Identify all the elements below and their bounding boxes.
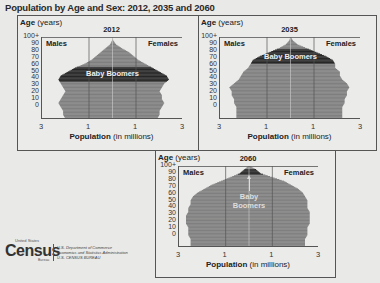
females-label: Females <box>148 39 178 48</box>
logo-word: Census <box>5 243 60 259</box>
males-label: Males <box>183 168 204 177</box>
y-tick: 0 <box>201 102 217 109</box>
females-label: Females <box>326 39 356 48</box>
y-tick-labels: 100+9080706050403020100 <box>158 162 176 238</box>
logo-line3: U.S. CENSUS BUREAU <box>57 255 128 260</box>
x-axis-label: Population (in millions) <box>69 132 153 141</box>
x-tick: 1 <box>133 122 137 131</box>
baby-label: Baby <box>233 192 266 201</box>
x-tick: 1 <box>264 122 268 131</box>
panel-2060: Age (years) 2060 100+9080706050403020100… <box>155 150 336 278</box>
baby-boomers-label: BabyBoomers <box>233 192 266 210</box>
logo-agency-text: U.S. Department of Commerce Economics an… <box>57 245 128 260</box>
x-tick: 3 <box>180 122 184 131</box>
panel-2012: Age (years) 2012 100+9080706050403020100… <box>17 15 199 151</box>
males-label: Males <box>224 39 245 48</box>
year-label: 2060 <box>240 154 257 163</box>
chart-title: Population by Age and Sex: 2012, 2035 an… <box>5 2 215 13</box>
pyramid-plot: MalesFemalesBaby Boomers <box>41 37 182 119</box>
males-label: Males <box>46 39 67 48</box>
x-tick: 1 <box>86 122 90 131</box>
pyramid-plot: MalesFemalesBabyBoomers <box>178 166 318 247</box>
y-tick: 0 <box>158 231 176 238</box>
year-label: 2035 <box>281 25 298 34</box>
y-axis-label: Age (years) <box>20 18 62 27</box>
boomers-label: Boomers <box>233 201 266 210</box>
y-tick-labels: 100+9080706050403020100 <box>201 33 217 109</box>
x-tick: 3 <box>39 122 43 131</box>
x-tick: 3 <box>217 122 221 131</box>
x-tick: 1 <box>269 250 273 259</box>
x-axis-label: Population (in millions) <box>247 132 331 141</box>
logo-divider <box>53 244 54 261</box>
pyramid-plot: MalesFemalesBaby Boomers <box>219 37 360 119</box>
x-tick: 3 <box>176 250 180 259</box>
baby-boomers-label: Baby Boomers <box>86 69 139 78</box>
panel-2035: Age (years) 2035 100+9080706050403020100… <box>198 15 377 151</box>
x-axis-label: Population (in millions) <box>206 260 290 269</box>
x-tick: 1 <box>223 250 227 259</box>
x-tick: 3 <box>316 250 320 259</box>
baby-boomers-label: Baby Boomers <box>264 52 317 61</box>
census-logo: United States Census Bureau U.S. Departm… <box>5 243 60 259</box>
y-axis-label: Age (years) <box>201 18 243 27</box>
y-tick: 0 <box>20 102 39 109</box>
pyramid-bars <box>220 37 360 119</box>
x-tick: 1 <box>311 122 315 131</box>
logo-sub: Bureau <box>38 258 49 262</box>
females-label: Females <box>284 168 314 177</box>
year-label: 2012 <box>103 25 120 34</box>
x-tick: 3 <box>358 122 362 131</box>
arrow-stem <box>249 179 250 191</box>
logo-sup: United States <box>15 238 39 243</box>
y-tick-labels: 100+9080706050403020100 <box>20 33 39 109</box>
